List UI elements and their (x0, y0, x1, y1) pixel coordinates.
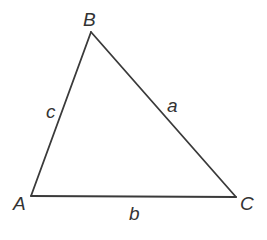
vertex-label-c: C (240, 193, 254, 214)
side-b (31, 196, 236, 197)
side-c (31, 32, 91, 196)
vertex-label-b: B (83, 9, 96, 30)
side-label-a: a (167, 95, 178, 116)
triangle-diagram: B A C c a b (0, 0, 267, 240)
vertex-label-a: A (12, 193, 26, 214)
side-label-b: b (129, 203, 140, 224)
side-a (91, 32, 236, 197)
side-label-c: c (46, 101, 56, 122)
